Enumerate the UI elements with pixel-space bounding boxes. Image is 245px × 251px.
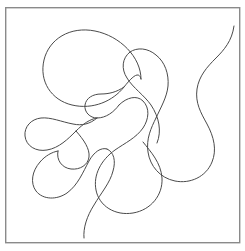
- artwork-svg: [0, 0, 245, 251]
- big-top-loop: [43, 30, 141, 106]
- curve-group: [25, 26, 234, 238]
- drawing-canvas: [0, 0, 245, 251]
- upper-teardrop-loop: [123, 52, 159, 143]
- border-rectangle: [6, 8, 240, 243]
- center-large-blob: [95, 98, 162, 214]
- top-right-entry-curve: [148, 26, 234, 182]
- left-mid-connector: [58, 131, 89, 169]
